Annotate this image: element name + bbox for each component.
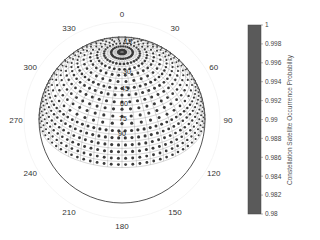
data-point xyxy=(86,50,88,52)
data-point xyxy=(136,128,139,131)
data-point xyxy=(48,106,50,108)
data-point xyxy=(101,46,103,48)
data-point xyxy=(198,108,200,110)
data-point xyxy=(118,68,121,71)
data-point xyxy=(79,90,82,93)
data-point xyxy=(131,150,134,153)
data-point xyxy=(90,52,92,54)
data-point xyxy=(88,102,91,105)
data-point xyxy=(171,62,173,64)
data-point xyxy=(94,112,97,115)
data-point xyxy=(53,129,55,131)
data-point xyxy=(124,57,127,60)
colorbar-tick-0.984: 0.984 xyxy=(265,173,282,180)
data-point xyxy=(134,92,137,95)
data-point xyxy=(98,60,101,63)
data-point xyxy=(174,132,177,135)
data-point xyxy=(62,65,64,67)
data-point xyxy=(140,121,143,124)
data-point xyxy=(183,110,186,113)
data-point xyxy=(108,66,111,69)
data-point xyxy=(133,86,136,89)
data-point xyxy=(103,162,106,165)
data-point xyxy=(194,93,196,95)
data-point xyxy=(45,91,47,93)
data-point xyxy=(133,45,135,47)
data-point xyxy=(188,123,190,125)
data-point xyxy=(75,96,78,99)
data-point xyxy=(53,113,55,115)
data-point xyxy=(86,125,89,128)
data-point xyxy=(44,118,46,120)
data-point xyxy=(143,98,146,101)
data-point xyxy=(48,116,50,118)
data-point xyxy=(180,65,182,67)
data-point xyxy=(129,107,132,110)
data-point xyxy=(198,95,200,97)
data-point xyxy=(84,76,87,79)
data-point xyxy=(146,75,149,78)
data-point xyxy=(44,134,46,136)
data-point xyxy=(187,145,189,147)
data-point xyxy=(153,56,155,58)
data-point xyxy=(118,46,120,48)
data-point xyxy=(122,45,124,47)
colorbar-tick-0.998: 0.998 xyxy=(265,40,282,47)
data-point xyxy=(92,119,95,122)
data-point xyxy=(92,81,95,84)
data-point xyxy=(71,70,73,72)
data-point xyxy=(55,139,57,141)
data-point xyxy=(60,142,63,145)
data-point xyxy=(160,123,163,126)
data-point xyxy=(197,128,199,130)
data-point xyxy=(65,70,67,72)
data-point xyxy=(157,93,160,96)
data-point xyxy=(162,90,165,93)
data-point xyxy=(128,100,131,103)
data-point xyxy=(162,130,165,133)
data-point xyxy=(120,122,123,125)
data-point xyxy=(193,97,195,99)
data-point xyxy=(138,162,141,165)
data-point xyxy=(164,143,167,146)
data-point xyxy=(131,143,134,146)
data-point xyxy=(83,63,85,65)
data-point xyxy=(120,108,123,111)
data-point xyxy=(174,79,176,81)
data-point xyxy=(196,112,198,114)
data-point xyxy=(66,88,69,91)
data-point xyxy=(202,126,204,128)
data-point xyxy=(138,142,141,145)
data-point xyxy=(164,55,166,57)
angular-tick-150: 150 xyxy=(168,208,182,217)
data-point xyxy=(72,102,75,105)
data-point xyxy=(186,139,188,141)
data-point xyxy=(150,49,152,51)
data-point xyxy=(76,156,79,159)
data-point xyxy=(192,110,194,112)
data-point xyxy=(103,52,105,54)
data-point xyxy=(171,66,173,68)
data-point xyxy=(162,52,164,54)
data-point xyxy=(165,62,167,64)
data-point xyxy=(152,153,155,156)
data-point xyxy=(143,127,146,130)
data-point xyxy=(158,63,160,65)
data-point xyxy=(177,65,179,67)
data-point xyxy=(76,121,79,124)
data-point xyxy=(117,157,120,160)
data-point xyxy=(196,122,198,124)
data-point xyxy=(81,73,84,76)
data-point xyxy=(139,52,141,54)
data-point xyxy=(156,67,159,70)
radial-tick-75: 75 xyxy=(119,115,127,122)
data-point xyxy=(77,66,79,68)
data-point xyxy=(43,124,45,126)
data-point xyxy=(89,56,91,58)
data-point xyxy=(101,77,104,80)
data-point xyxy=(113,100,116,103)
data-point xyxy=(96,155,99,158)
data-point xyxy=(117,143,120,146)
data-point xyxy=(119,63,122,66)
data-point xyxy=(145,57,147,59)
